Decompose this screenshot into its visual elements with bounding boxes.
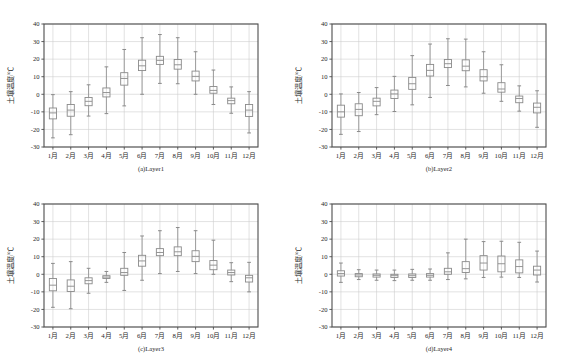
y-tick-label: -20 — [31, 126, 40, 133]
y-axis-title: 土壤温度/℃ — [294, 67, 303, 104]
y-tick-label: 40 — [33, 200, 40, 207]
y-tick-label: -10 — [31, 288, 40, 295]
y-axis-title: 土壤温度/℃ — [6, 247, 15, 284]
y-tick-label: 0 — [324, 271, 328, 278]
x-tick-label: 8月 — [461, 152, 471, 160]
x-tick-label: 7月 — [443, 332, 453, 340]
box-plot-item — [337, 94, 344, 134]
x-tick-label: 11月 — [512, 332, 526, 340]
box-plot-item — [409, 56, 416, 105]
x-tick-label: 2月 — [354, 152, 364, 160]
y-tick-label: 10 — [33, 73, 40, 80]
box-iqr — [462, 262, 469, 273]
x-tick-label: 6月 — [425, 332, 435, 340]
box-plot-item — [462, 39, 469, 87]
box-plot-item — [85, 268, 92, 293]
y-axis-title: 土壤温度/℃ — [294, 247, 303, 284]
x-tick-label: 4月 — [389, 152, 399, 160]
y-tick-label: 10 — [321, 253, 328, 260]
x-tick-label: 10月 — [207, 332, 221, 340]
y-tick-label: 0 — [36, 271, 40, 278]
y-tick-label: 20 — [321, 235, 328, 242]
box-iqr — [516, 96, 523, 103]
box-plot-item — [67, 262, 74, 309]
box-plot-item — [391, 270, 398, 281]
box-iqr — [498, 83, 505, 92]
y-tick-label: 20 — [33, 55, 40, 62]
box-plot-item — [355, 270, 362, 280]
y-tick-label: 40 — [33, 20, 40, 27]
box-plot-item — [373, 270, 380, 280]
x-tick-label: 7月 — [155, 332, 165, 340]
y-tick-label: 30 — [33, 218, 40, 225]
plot-frame — [332, 204, 546, 327]
y-tick-label: -10 — [319, 108, 328, 115]
x-tick-label: 1月 — [336, 332, 346, 340]
y-tick-label: -20 — [319, 306, 328, 313]
box-plot-item — [228, 87, 235, 113]
box-plot-item — [534, 251, 541, 282]
x-tick-label: 10月 — [207, 152, 221, 160]
x-tick-label: 8月 — [173, 152, 183, 160]
box-plot-item — [516, 242, 523, 277]
panel-b: 403020100-10-20-301月2月3月4月5月6月7月8月9月10月1… — [288, 0, 575, 179]
x-tick-label: 1月 — [48, 152, 58, 160]
panel-caption: (a)Layer1 — [138, 165, 164, 173]
box-iqr — [49, 279, 56, 291]
y-tick-label: -20 — [319, 126, 328, 133]
box-plot-item — [534, 91, 541, 128]
box-plot-item — [480, 52, 487, 93]
panel-c-container: 403020100-10-20-301月2月3月4月5月6月7月8月9月10月1… — [0, 180, 288, 358]
x-tick-label: 8月 — [461, 332, 471, 340]
x-tick-label: 2月 — [354, 332, 364, 340]
box-iqr — [246, 275, 253, 282]
y-tick-label: -10 — [319, 288, 328, 295]
panel-d: 403020100-10-20-301月2月3月4月5月6月7月8月9月10月1… — [288, 180, 575, 358]
x-tick-label: 10月 — [495, 152, 509, 160]
y-tick-label: -30 — [31, 143, 40, 150]
box-plot-item — [121, 49, 128, 105]
x-tick-label: 9月 — [190, 332, 200, 340]
y-axis-title: 土壤温度/℃ — [6, 67, 15, 104]
y-tick-label: -10 — [31, 108, 40, 115]
x-tick-label: 11月 — [224, 152, 238, 160]
box-iqr — [210, 87, 217, 94]
box-iqr — [534, 266, 541, 275]
plot-frame — [44, 24, 258, 147]
box-plot-item — [337, 263, 344, 282]
x-tick-label: 3月 — [371, 332, 381, 340]
x-tick-label: 11月 — [224, 332, 238, 340]
box-plot-item — [427, 269, 434, 280]
box-plot-item — [373, 88, 380, 115]
plot-frame — [332, 24, 546, 147]
box-iqr — [462, 60, 469, 71]
box-plot-item — [192, 52, 199, 95]
x-tick-label: 3月 — [371, 152, 381, 160]
box-iqr — [337, 105, 344, 117]
panel-caption: (d)Layer4 — [426, 345, 453, 353]
box-plot-item — [174, 228, 181, 272]
box-plot-item — [427, 44, 434, 97]
x-tick-label: 9月 — [478, 332, 488, 340]
box-plot-item — [498, 65, 505, 102]
box-plot-item — [85, 85, 92, 116]
panel-d-container: 403020100-10-20-301月2月3月4月5月6月7月8月9月10月1… — [288, 180, 575, 358]
x-tick-label: 7月 — [155, 152, 165, 160]
x-tick-label: 5月 — [119, 152, 129, 160]
y-tick-label: -30 — [31, 323, 40, 330]
y-tick-label: 10 — [321, 73, 328, 80]
box-plot-item — [210, 70, 217, 104]
x-tick-label: 5月 — [407, 332, 417, 340]
box-plot-item — [103, 271, 110, 282]
x-tick-label: 8月 — [173, 332, 183, 340]
box-plot-item — [355, 93, 362, 132]
box-iqr — [67, 280, 74, 292]
x-tick-label: 1月 — [336, 152, 346, 160]
figure-boxplot-grid: 403020100-10-20-301月2月3月4月5月6月7月8月9月10月1… — [0, 0, 575, 358]
x-tick-label: 7月 — [443, 152, 453, 160]
panel-b-container: 403020100-10-20-301月2月3月4月5月6月7月8月9月10月1… — [288, 0, 575, 179]
box-plot-item — [246, 262, 253, 292]
box-plot-item — [156, 231, 163, 274]
x-tick-label: 2月 — [66, 332, 76, 340]
x-tick-label: 6月 — [137, 332, 147, 340]
